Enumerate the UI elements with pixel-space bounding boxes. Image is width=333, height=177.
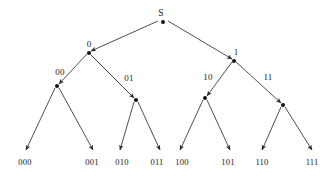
leaf-label-100: 100 — [175, 158, 188, 167]
node-label-root: S — [158, 9, 163, 19]
tree-edge-S-to-0 — [91, 21, 158, 51]
leaf-label-001: 001 — [85, 158, 98, 167]
node-label-0: 0 — [87, 40, 92, 49]
edge-group — [26, 21, 312, 150]
binary-tree-diagram: S 0100011011000001010011100101110111 — [0, 0, 333, 177]
internal-node-dot-10[interactable] — [203, 96, 207, 100]
tree-edge-1-to-11 — [236, 62, 281, 103]
internal-node-dot-01[interactable] — [134, 98, 138, 102]
root-node-dot-S[interactable] — [161, 20, 165, 24]
leaf-label-110: 110 — [255, 158, 268, 167]
node-label-10: 10 — [203, 73, 212, 82]
tree-edge-01-to-010 — [120, 102, 134, 150]
node-label-00: 00 — [55, 68, 64, 77]
node-label-11: 11 — [263, 73, 272, 82]
tree-edge-11-to-111 — [285, 107, 312, 150]
tree-edge-01-to-011 — [138, 102, 160, 150]
leaf-label-101: 101 — [221, 158, 234, 167]
tree-edge-10-to-101 — [207, 100, 230, 150]
leaf-label-111: 111 — [306, 158, 319, 167]
internal-node-dot-11[interactable] — [281, 103, 285, 107]
internal-node-dot-0[interactable] — [87, 51, 91, 55]
tree-edge-00-to-000 — [26, 88, 55, 150]
leaf-label-010: 010 — [115, 158, 128, 167]
leaf-label-011: 011 — [150, 158, 163, 167]
node-label-1: 1 — [234, 48, 239, 57]
tree-edge-11-to-110 — [262, 107, 281, 150]
leaf-label-000: 000 — [18, 158, 31, 167]
internal-node-dot-00[interactable] — [55, 84, 59, 88]
tree-edge-10-to-100 — [180, 100, 203, 150]
tree-edge-S-to-1 — [168, 21, 232, 59]
tree-edge-00-to-001 — [59, 88, 93, 150]
node-dot-group — [55, 20, 285, 107]
internal-node-dot-1[interactable] — [232, 59, 236, 63]
node-label-01: 01 — [124, 74, 133, 83]
tree-edges-canvas — [0, 0, 333, 177]
